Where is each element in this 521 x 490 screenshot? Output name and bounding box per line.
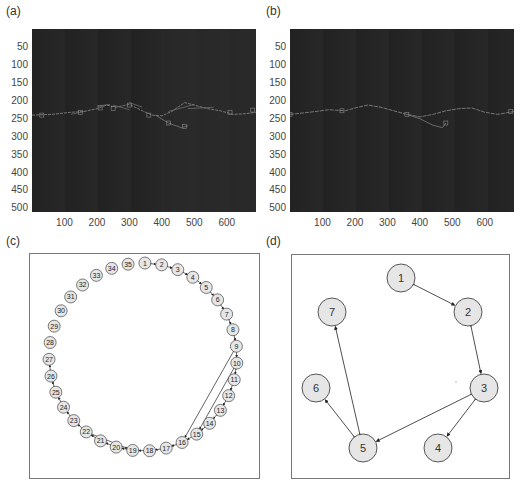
svg-text:18: 18: [146, 447, 154, 454]
y-tick-label: 100: [2, 59, 28, 70]
graph-c-node: 10: [231, 357, 243, 369]
graph-c-node: 4: [187, 271, 199, 283]
x-tick-label: 100: [307, 217, 337, 228]
x-tick-label: 500: [179, 217, 209, 228]
graph-d-node: 4: [424, 434, 452, 462]
graph-d-box: 1234567: [291, 254, 510, 479]
graph-c-node: 19: [127, 444, 139, 456]
graph-d-node: 2: [454, 298, 482, 326]
graph-c-node: 1: [139, 257, 151, 269]
graph-c-node: 11: [228, 374, 240, 386]
graph-c-node: 5: [200, 281, 212, 293]
x-tick-label: 500: [437, 217, 467, 228]
svg-text:20: 20: [112, 444, 120, 451]
svg-text:12: 12: [225, 392, 233, 399]
y-tick-label: 450: [2, 184, 28, 195]
graph-c-node: 12: [223, 390, 235, 402]
graph-c-node: 25: [50, 386, 62, 398]
y-tick-label: 100: [260, 59, 286, 70]
graph-d-node: 7: [318, 298, 346, 326]
svg-text:21: 21: [97, 437, 105, 444]
x-tick-label: 200: [82, 217, 112, 228]
svg-text:3: 3: [481, 382, 487, 394]
x-tick-label: 400: [405, 217, 435, 228]
svg-text:33: 33: [93, 272, 101, 279]
graph-c-node: 2: [156, 259, 168, 271]
graph-d-node: 5: [349, 434, 377, 462]
graph-c-node: 29: [48, 320, 60, 332]
graph-c-node: 21: [95, 435, 107, 447]
svg-text:9: 9: [234, 343, 238, 350]
x-tick-label: 600: [470, 217, 500, 228]
graph-c-node: 3: [172, 264, 184, 276]
svg-text:13: 13: [217, 407, 225, 414]
svg-text:23: 23: [70, 417, 78, 424]
graph-d-node: 6: [302, 374, 330, 402]
y-tick-label: 300: [260, 131, 286, 142]
graph-c-node: 26: [45, 370, 57, 382]
graph-c-node: 22: [80, 426, 92, 438]
y-tick-label: 350: [2, 149, 28, 160]
graph-c-node: 35: [122, 258, 134, 270]
svg-text:19: 19: [129, 447, 137, 454]
graph-c-node: 30: [55, 305, 67, 317]
graph-c-node: 28: [44, 337, 56, 349]
svg-text:7: 7: [225, 311, 229, 318]
panel-label-c: (c): [6, 234, 20, 248]
y-tick-label: 250: [2, 113, 28, 124]
svg-text:28: 28: [46, 339, 54, 346]
svg-text:17: 17: [162, 445, 170, 452]
graph-d-node: 3: [470, 374, 498, 402]
panel-label-d: (d): [266, 234, 281, 248]
y-tick-label: 500: [2, 202, 28, 213]
graph-c-node: 20: [110, 441, 122, 453]
y-tick-label: 150: [2, 77, 28, 88]
graph-c-node: 15: [191, 428, 203, 440]
svg-text:10: 10: [233, 360, 241, 367]
svg-text:2: 2: [160, 261, 164, 268]
svg-text:30: 30: [57, 307, 65, 314]
svg-text:16: 16: [178, 439, 186, 446]
svg-text:3: 3: [176, 266, 180, 273]
svg-text:26: 26: [47, 373, 55, 380]
svg-text:15: 15: [193, 431, 201, 438]
svg-text:11: 11: [231, 376, 238, 383]
svg-text:24: 24: [60, 404, 68, 411]
y-tick-label: 400: [260, 167, 286, 178]
y-tick-label: 450: [260, 184, 286, 195]
graph-c-node: 32: [77, 279, 89, 291]
x-tick-label: 100: [49, 217, 79, 228]
graph-c-node: 31: [65, 291, 77, 303]
svg-text:29: 29: [50, 323, 58, 330]
svg-text:31: 31: [67, 293, 75, 300]
graph-c-node: 24: [58, 401, 70, 413]
svg-text:25: 25: [52, 389, 60, 396]
graph-c-node: 14: [204, 417, 216, 429]
y-tick-label: 200: [2, 95, 28, 106]
x-tick-label: 400: [147, 217, 177, 228]
graph-c-node: 33: [90, 269, 102, 281]
graph-c-node: 27: [43, 353, 55, 365]
y-tick-label: 500: [260, 202, 286, 213]
y-tick-label: 50: [2, 41, 28, 52]
graph-c-node: 34: [106, 262, 118, 274]
svg-text:2: 2: [465, 306, 471, 318]
svg-text:8: 8: [231, 326, 235, 333]
graph-c-node: 23: [68, 415, 80, 427]
svg-text:35: 35: [124, 261, 132, 268]
y-tick-label: 400: [2, 167, 28, 178]
svg-text:7: 7: [329, 306, 335, 318]
image-plot-b: [290, 29, 514, 212]
svg-text:4: 4: [435, 442, 441, 454]
x-tick-label: 300: [114, 217, 144, 228]
graph-c-node: 18: [144, 445, 156, 457]
x-tick-label: 200: [340, 217, 370, 228]
svg-text:4: 4: [191, 274, 195, 281]
x-tick-label: 600: [212, 217, 242, 228]
svg-text:6: 6: [313, 382, 319, 394]
svg-text:1: 1: [398, 272, 404, 284]
y-tick-label: 200: [260, 95, 286, 106]
graph-d-node: 1: [387, 264, 415, 292]
svg-text:32: 32: [79, 281, 87, 288]
y-tick-label: 250: [260, 113, 286, 124]
